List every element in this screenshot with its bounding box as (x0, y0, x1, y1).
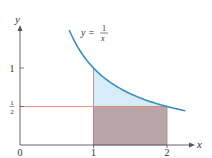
x-axis-label: x (196, 138, 202, 150)
y-axis-arrowhead (18, 25, 23, 31)
x-tick-label: 1 (91, 147, 96, 158)
chart: y x y = 1 x 012112 (0, 0, 212, 158)
y-tick-label: 1 (10, 63, 15, 74)
curve-label-denominator: x (100, 34, 105, 43)
x-tick-label: 0 (18, 147, 23, 158)
x-axis-arrowhead (189, 143, 195, 148)
shaded-area-under-curve (94, 68, 168, 107)
y-tick-label-denominator: 2 (10, 108, 14, 116)
rectangle-region (94, 107, 168, 146)
y-axis-label: y (14, 13, 20, 25)
curve-label-numerator: 1 (102, 24, 106, 33)
x-tick-label: 2 (165, 147, 170, 158)
curve-label-lhs: y = (80, 27, 95, 38)
y-tick-label-numerator: 1 (10, 99, 14, 107)
